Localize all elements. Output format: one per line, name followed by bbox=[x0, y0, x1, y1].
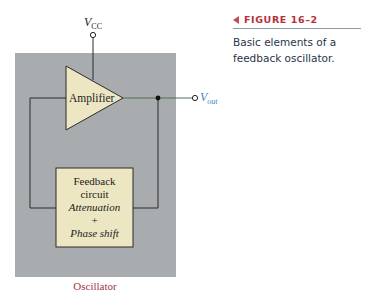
feedback-line-5: Phase shift bbox=[69, 227, 120, 239]
output-terminal bbox=[192, 95, 197, 100]
figure-caption-block: FIGURE 16–2 Basic elements of a feedback… bbox=[233, 14, 377, 66]
feedback-line-1: Feedback bbox=[73, 175, 116, 187]
feedback-line-3: Attenuation bbox=[68, 201, 121, 213]
feedback-line-4: + bbox=[91, 214, 97, 226]
figure-number: FIGURE 16–2 bbox=[244, 14, 318, 25]
vcc-label: VCC bbox=[84, 15, 102, 31]
figure-label: FIGURE 16–2 bbox=[233, 14, 361, 29]
caret-left-icon bbox=[233, 16, 239, 24]
feedback-line-2: circuit bbox=[80, 188, 108, 200]
amplifier-label: Amplifier bbox=[69, 92, 115, 105]
oscillator-label: Oscillator bbox=[73, 280, 117, 292]
vcc-terminal bbox=[90, 32, 95, 37]
junction-dot bbox=[156, 96, 161, 101]
vout-label: Vout bbox=[200, 90, 218, 106]
figure-caption: Basic elements of a feedback oscillator. bbox=[233, 34, 373, 66]
